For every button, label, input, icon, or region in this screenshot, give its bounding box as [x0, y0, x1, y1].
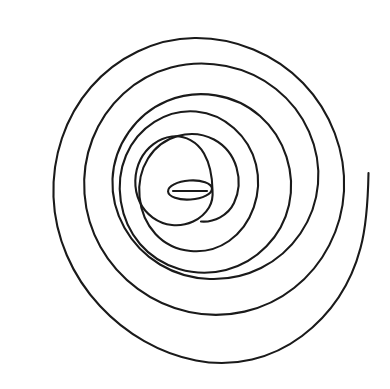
spiral-figure: Hand-drawn spiral line drawing A freehan… — [0, 0, 390, 389]
canvas-background — [0, 0, 390, 389]
drawing-canvas: Hand-drawn spiral line drawing A freehan… — [0, 0, 390, 389]
